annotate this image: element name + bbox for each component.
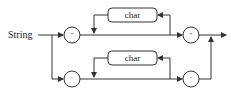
bottom-char-label: char: [125, 53, 141, 63]
syntax-diagram: String " " ' ' char char: [0, 0, 231, 93]
bottom-end-glyph: ': [190, 75, 191, 83]
branch-line: [52, 35, 63, 79]
merge-line: [199, 37, 211, 79]
bottom-start-glyph: ': [71, 75, 72, 83]
top-char-label: char: [125, 10, 141, 20]
top-start-glyph: ": [71, 31, 74, 39]
top-loop-exit: [94, 15, 108, 33]
bottom-loop-exit: [94, 58, 108, 77]
top-end-glyph: ": [190, 31, 193, 39]
top-loop-return: [158, 15, 170, 35]
bottom-loop-return: [158, 58, 170, 79]
diagram-title: String: [8, 29, 32, 40]
